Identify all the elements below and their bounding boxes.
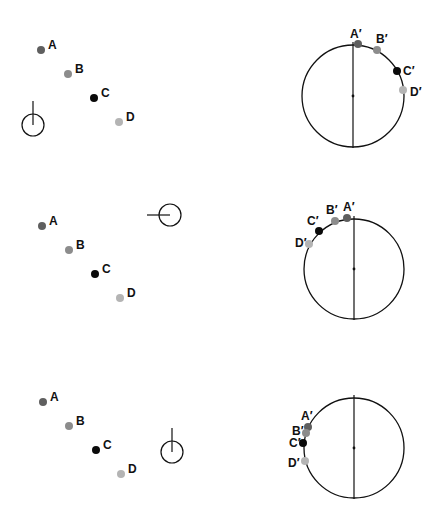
projection-dot — [393, 67, 401, 75]
panel-2: ABCDA′B′C′D′ — [38, 200, 404, 320]
point-label: B — [75, 62, 84, 76]
projection-label: C′ — [307, 214, 319, 228]
point-dot — [90, 94, 98, 102]
point-B: B — [65, 238, 85, 254]
point-C: C — [90, 86, 110, 102]
point-label: D — [127, 286, 136, 300]
projection-dot — [301, 457, 309, 465]
point-label: C — [102, 262, 111, 276]
projection-label: C′ — [403, 64, 415, 78]
point-dot — [38, 222, 46, 230]
point-dot — [117, 470, 125, 478]
point-B: B — [64, 62, 84, 78]
projection-circle — [304, 395, 404, 499]
point-label: A — [50, 390, 59, 404]
projection-C: C′ — [393, 64, 415, 78]
projection-circle — [302, 42, 404, 148]
point-label: C — [101, 86, 110, 100]
point-A: A — [38, 214, 58, 230]
projection-D: D′ — [295, 236, 313, 250]
point-D: D — [116, 286, 136, 302]
point-D: D — [115, 110, 135, 126]
point-dot — [39, 398, 47, 406]
projection-dot — [354, 40, 362, 48]
point-dot — [91, 270, 99, 278]
projection-D: D′ — [288, 456, 309, 470]
point-A: A — [39, 390, 59, 406]
projection-dot — [373, 46, 381, 54]
projection-diagram: ABCDA′B′C′D′ABCDA′B′C′D′ABCDA′B′C′D′ — [0, 0, 447, 515]
projection-B: B′ — [326, 203, 339, 225]
projection-dot — [331, 217, 339, 225]
point-C: C — [92, 438, 112, 454]
point-label: C — [103, 438, 112, 452]
point-dot — [65, 246, 73, 254]
point-dot — [37, 46, 45, 54]
projection-label: B′ — [326, 203, 338, 217]
projection-label: A′ — [350, 27, 362, 41]
point-label: A — [48, 38, 57, 52]
projection-label: A′ — [343, 200, 355, 214]
point-dot — [64, 70, 72, 78]
point-label: D — [126, 110, 135, 124]
projection-label: B′ — [376, 32, 388, 46]
panel-1: ABCDA′B′C′D′ — [22, 27, 422, 148]
point-label: A — [49, 214, 58, 228]
viewer-icon — [147, 204, 181, 226]
projection-label: D′ — [410, 85, 422, 99]
point-label: D — [128, 462, 137, 476]
point-dot — [116, 294, 124, 302]
point-C: C — [91, 262, 111, 278]
center-dot — [353, 447, 356, 450]
projection-dot — [315, 227, 323, 235]
viewer-icon — [161, 428, 183, 463]
panel-3: ABCDA′B′C′D′ — [39, 390, 404, 499]
projection-B: B′ — [373, 32, 388, 54]
projection-label: D′ — [295, 236, 307, 250]
projection-dot — [399, 86, 407, 94]
point-dot — [65, 422, 73, 430]
projection-D: D′ — [399, 85, 422, 99]
point-D: D — [117, 462, 137, 478]
point-dot — [92, 446, 100, 454]
center-dot — [352, 95, 355, 98]
projection-label: C′ — [289, 436, 301, 450]
projection-label: D′ — [288, 456, 300, 470]
point-A: A — [37, 38, 57, 54]
center-dot — [353, 268, 356, 271]
point-label: B — [76, 238, 85, 252]
point-label: B — [76, 414, 85, 428]
projection-C: C′ — [307, 214, 323, 235]
point-dot — [115, 118, 123, 126]
projection-label: A′ — [301, 409, 313, 423]
projection-dot — [343, 214, 351, 222]
viewer-icon — [22, 101, 44, 136]
point-B: B — [65, 414, 85, 430]
